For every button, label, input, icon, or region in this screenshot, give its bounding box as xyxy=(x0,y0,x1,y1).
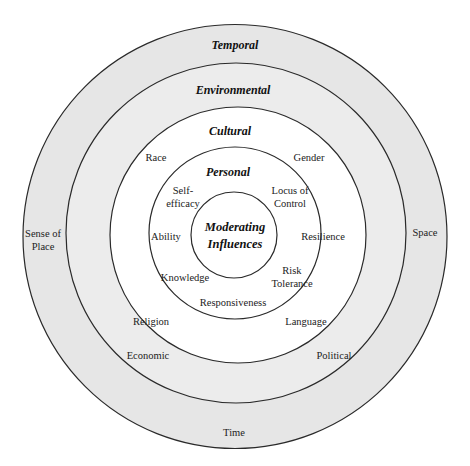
self-efficacy-label: Self- efficacy xyxy=(166,184,200,210)
knowledge-label: Knowledge xyxy=(161,271,209,284)
economic-label: Economic xyxy=(127,349,170,362)
risk-tolerance-label: Risk Tolerance xyxy=(271,264,312,290)
sense-of-place-line-1: Sense of xyxy=(25,227,61,240)
language-label: Language xyxy=(285,315,326,328)
religion-label: Religion xyxy=(133,315,169,328)
locus-line-1: Locus of xyxy=(271,184,308,197)
ability-label: Ability xyxy=(151,230,181,243)
responsiveness-label: Responsiveness xyxy=(200,296,267,309)
risk-line-2: Tolerance xyxy=(271,277,312,290)
cultural-title: Cultural xyxy=(209,125,251,138)
resilience-label: Resilience xyxy=(301,230,345,243)
environmental-title: Environmental xyxy=(196,84,271,97)
time-label: Time xyxy=(223,426,245,439)
gender-label: Gender xyxy=(294,151,325,164)
moderating-influences-label: Moderating Influences xyxy=(205,219,265,253)
locus-line-2: Control xyxy=(271,197,308,210)
temporal-title: Temporal xyxy=(212,39,259,52)
locus-of-control-label: Locus of Control xyxy=(271,184,308,210)
political-label: Political xyxy=(317,349,352,362)
personal-title: Personal xyxy=(206,166,250,179)
space-label: Space xyxy=(412,226,437,239)
self-efficacy-line-1: Self- xyxy=(166,184,200,197)
risk-line-1: Risk xyxy=(271,264,312,277)
self-efficacy-line-2: efficacy xyxy=(166,197,200,210)
race-label: Race xyxy=(146,151,167,164)
center-line-1: Moderating xyxy=(205,219,265,236)
sense-of-place-label: Sense of Place xyxy=(25,227,61,253)
sense-of-place-line-2: Place xyxy=(25,240,61,253)
center-line-2: Influences xyxy=(205,236,265,253)
